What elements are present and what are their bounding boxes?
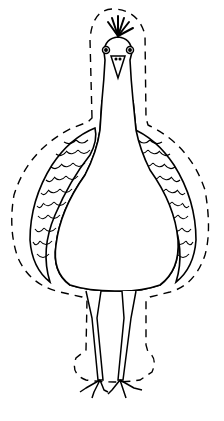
feet [80,380,142,398]
legs [86,291,136,380]
peacock-drawing: Black line drawing of a peacock (front v… [0,0,224,421]
drawing-svg [0,0,224,421]
crest [108,16,133,36]
body [55,100,178,291]
